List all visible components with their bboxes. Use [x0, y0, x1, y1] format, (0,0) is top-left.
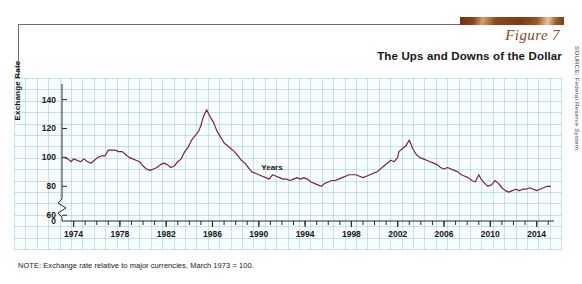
header-horizontal-rule — [18, 24, 460, 25]
chart-source: SOURCE: Federal Reserve System. — [574, 46, 581, 152]
decorative-accent-bar — [460, 17, 564, 25]
x-axis-tick-1974: 1974 — [54, 229, 94, 239]
data-series-line — [64, 110, 550, 192]
chart-note: NOTE: Exchange rate relative to major cu… — [18, 261, 254, 270]
x-axis-title: Years — [232, 163, 312, 172]
y-axis-title: Exchange Rate — [13, 61, 22, 121]
x-axis-tick-1982: 1982 — [146, 229, 186, 239]
figure-title: The Ups and Downs of the Dollar — [180, 50, 562, 62]
y-axis-tick-80: 80 — [22, 181, 56, 191]
figure-label: Figure 7 — [300, 27, 560, 44]
y-axis-tick-60: 60 — [22, 210, 56, 220]
x-axis-tick-1994: 1994 — [285, 229, 325, 239]
x-axis-tick-1986: 1986 — [192, 229, 232, 239]
y-axis-tick-140: 140 — [22, 95, 56, 105]
y-axis-tick-120: 120 — [22, 123, 56, 133]
x-axis-tick-2002: 2002 — [378, 229, 418, 239]
figure-container: Figure 7 The Ups and Downs of the Dollar… — [0, 0, 582, 284]
x-axis-tick-1978: 1978 — [100, 229, 140, 239]
x-axis-tick-1990: 1990 — [239, 229, 279, 239]
y-axis-tick-100: 100 — [22, 152, 56, 162]
x-axis-tick-2006: 2006 — [424, 229, 464, 239]
x-axis-tick-1998: 1998 — [331, 229, 371, 239]
x-axis-tick-2014: 2014 — [517, 229, 557, 239]
x-axis-tick-2010: 2010 — [470, 229, 510, 239]
